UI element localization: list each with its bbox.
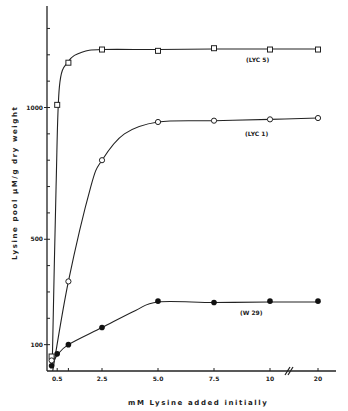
data-point-w29	[315, 298, 321, 304]
x-tick-label: 2.5	[97, 375, 108, 382]
data-point-lyc1	[315, 115, 320, 120]
x-tick-label: 7.5	[209, 375, 220, 382]
data-point-w29	[267, 298, 273, 304]
data-point-lyc5	[212, 46, 217, 51]
data-point-w29	[211, 300, 217, 306]
series-line-w29	[52, 301, 318, 366]
y-tick-label: 100	[30, 341, 43, 348]
data-point-lyc5	[316, 47, 321, 52]
x-tick-label: 5.0	[153, 375, 164, 382]
series-line-lyc1	[53, 118, 318, 371]
x-tick-label: 10	[266, 375, 274, 382]
series-tag-lyc5: (LYC 5)	[246, 56, 269, 63]
data-point-lyc1	[155, 119, 160, 124]
data-point-lyc5	[156, 48, 161, 53]
curves	[52, 49, 318, 371]
data-point-lyc5	[66, 60, 71, 65]
lysine-pool-chart: 10050010000.52.55.07.51020 Lysine pool µ…	[0, 0, 348, 411]
x-tick-label: 0.5	[52, 375, 63, 382]
data-point-w29	[99, 325, 105, 331]
data-point-lyc1	[66, 279, 71, 284]
data-point-lyc1	[99, 158, 104, 163]
data-point-lyc5	[100, 47, 105, 52]
data-point-lyc1	[49, 358, 54, 363]
series-tag-lyc1: (LYC 1)	[245, 130, 268, 137]
y-axis-title: Lysine pool µM/g dry weight	[11, 106, 19, 261]
data-point-lyc1	[267, 117, 272, 122]
series-line-lyc5	[52, 49, 318, 363]
data-point-w29	[66, 342, 72, 348]
markers	[49, 46, 321, 369]
x-tick-label: 20	[314, 375, 322, 382]
axes: 10050010000.52.55.07.51020	[26, 6, 336, 382]
x-axis-title: mM Lysine added initially	[128, 399, 269, 407]
data-point-w29	[49, 363, 55, 369]
series-tag-w29: (W 29)	[240, 309, 263, 316]
data-point-lyc5	[268, 47, 273, 52]
data-point-lyc1	[211, 118, 216, 123]
data-point-w29	[54, 351, 60, 357]
data-point-w29	[155, 298, 161, 304]
y-tick-label: 1000	[26, 104, 43, 111]
data-point-lyc5	[55, 102, 60, 107]
y-tick-label: 500	[30, 235, 43, 242]
